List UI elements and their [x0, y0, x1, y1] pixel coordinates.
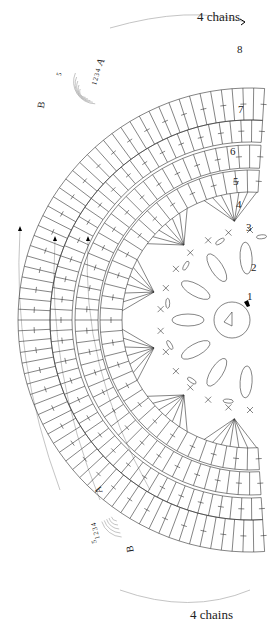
stitch-bar	[71, 194, 75, 199]
stitch	[208, 494, 213, 515]
stitch	[167, 482, 176, 502]
stitch-bar	[52, 229, 54, 234]
stitch-bar	[102, 390, 105, 395]
fan-stitch	[204, 201, 234, 222]
chain-stitch	[182, 260, 190, 271]
stitch-bar	[36, 347, 37, 353]
stitch	[74, 404, 94, 414]
stitch	[223, 173, 227, 195]
markers	[18, 19, 250, 307]
puff-stitch	[239, 366, 253, 399]
stitch	[53, 349, 75, 353]
row-label-2: 2	[251, 262, 257, 273]
stitch	[112, 134, 131, 160]
chain-stitch	[166, 298, 170, 308]
stitch	[43, 216, 72, 230]
fan-stitch	[127, 348, 154, 356]
arrow-icon	[53, 236, 57, 241]
stitch-bar	[52, 405, 54, 410]
stitch-bar	[142, 161, 147, 164]
stitch-bar	[170, 434, 175, 437]
stitch-bar	[98, 433, 102, 438]
stitch	[230, 121, 232, 143]
stitch	[81, 359, 103, 365]
stitch	[187, 489, 194, 510]
bottom-chain-label: 4 chains	[190, 608, 233, 621]
stitch	[64, 246, 84, 254]
stitch	[149, 500, 163, 529]
single-crochet	[173, 368, 179, 374]
stitch	[64, 386, 84, 394]
stitch	[183, 158, 192, 179]
stitch	[190, 513, 198, 544]
chain-stitch	[223, 399, 233, 404]
top-chain-label: 4 chains	[197, 10, 240, 23]
stitch	[80, 162, 104, 184]
stitch	[199, 440, 206, 461]
stitch	[34, 393, 64, 405]
crochet-diagram	[0, 0, 270, 641]
bottom-chain-arc	[120, 590, 250, 603]
single-crochet	[163, 285, 169, 291]
chain-stitch	[187, 376, 198, 385]
stitch	[53, 288, 75, 292]
stitch-bar	[111, 486, 116, 490]
stitch-bar	[127, 498, 132, 501]
stitch-bar	[157, 454, 162, 457]
fan-stitch	[125, 347, 154, 348]
stitch	[105, 351, 126, 356]
fan-stitch	[184, 208, 187, 245]
stitch-bar	[190, 445, 195, 447]
stitch	[208, 124, 213, 145]
single-crochet	[187, 384, 193, 390]
stitch-bar	[138, 233, 142, 238]
stitch	[204, 467, 210, 489]
chain-stitch	[256, 234, 266, 239]
stitch	[167, 138, 176, 158]
row-label-8: 8	[237, 44, 243, 55]
stitch	[80, 456, 104, 478]
single-crochet	[173, 266, 179, 272]
stitch-bar	[77, 397, 80, 403]
stitch	[112, 371, 132, 380]
stitch	[27, 256, 58, 265]
stitch-bar	[175, 172, 180, 175]
arrow-icon	[86, 236, 90, 241]
fan-stitch	[123, 338, 154, 348]
stitch	[139, 406, 155, 421]
stitch	[98, 436, 115, 450]
stitch	[148, 473, 159, 492]
stitch	[253, 88, 254, 120]
stitch-bar	[83, 457, 87, 462]
stitch	[57, 266, 78, 272]
stitch-bar	[111, 151, 116, 155]
fan-stitch	[127, 284, 154, 292]
row-label-5: 5	[233, 176, 239, 187]
single-crochet	[225, 230, 231, 236]
stitch	[88, 253, 109, 262]
puff-stitch	[179, 337, 213, 363]
stitch	[143, 181, 157, 199]
stitch-bar	[160, 151, 165, 154]
stitch-bar	[220, 105, 226, 106]
stitch-bar	[170, 203, 175, 206]
stitch	[112, 481, 131, 507]
stitch	[211, 91, 217, 123]
stitch	[74, 226, 94, 236]
single-crochet	[247, 407, 253, 413]
start-triangle	[224, 312, 232, 326]
stitch	[230, 497, 232, 519]
stitch-bar	[36, 287, 37, 293]
stitch	[111, 412, 129, 426]
stitch	[169, 103, 180, 133]
stitch-bar	[83, 179, 87, 184]
stitch	[101, 330, 123, 332]
stitch-bar	[98, 203, 102, 208]
stitch	[227, 471, 230, 494]
stitch	[149, 111, 163, 140]
stitch-bar	[138, 402, 142, 407]
fan-stitch	[204, 419, 234, 440]
stitch	[66, 179, 91, 198]
stitch	[211, 517, 217, 549]
fan-stitch	[133, 348, 154, 373]
